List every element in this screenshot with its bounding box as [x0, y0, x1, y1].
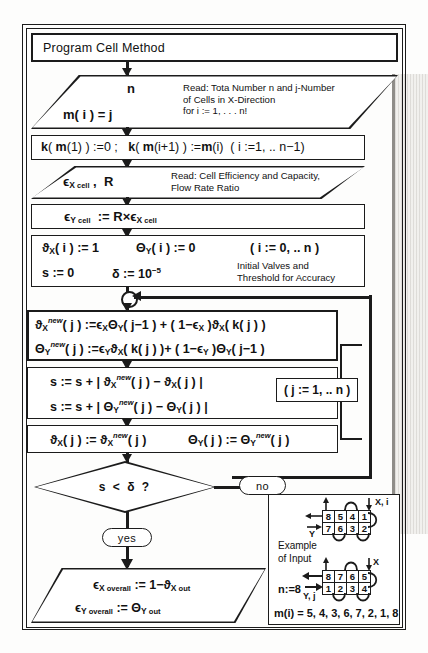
- update-line1: ϑXnew( j ) :=ϵXΘY( j−1 ) + ( 1−ϵX )ϑX( k…: [35, 316, 266, 333]
- example-grid-bottom-overlay: [269, 495, 401, 626]
- output-line2: ϵY overall := ΘY out: [75, 601, 160, 616]
- loop-range-label-box: ( j := 1, .. n ) ( j := 1, .. n ): [276, 378, 358, 402]
- init-line1a: ϑX( i ) := 1: [42, 241, 99, 256]
- process-box-initial-values: ϑX( i ) := 1 ΘY( i ) := 0 ( i := 0, .. n…: [31, 235, 365, 287]
- title-box: Program Cell Method: [31, 33, 398, 62]
- input1-var-top: n: [127, 81, 135, 96]
- process-box-k-assign: k( m(1) ) :=0 ; k( m(i+1) ) :=m(i) ( i :…: [31, 135, 365, 160]
- branch-label-no[interactable]: no: [239, 476, 286, 495]
- loopback-horizontal: [134, 296, 372, 299]
- connector-decision-to-no: [214, 486, 242, 489]
- loopback-vertical: [369, 295, 372, 478]
- output-content: ϵX overall := 1−ϑX out ϵY overall := ΘY …: [31, 568, 266, 623]
- process-box-epsilon-y: ϵY cell := R×ϵX cell ε Y cell := R × ε X…: [31, 204, 365, 229]
- loop-bracket-bottom: [340, 438, 362, 440]
- init-line1b: ΘY( i ) := 0: [136, 241, 196, 256]
- update-line2: ΘYnew( j ) :=ϵYϑX( k( j ) )+ ( 1−ϵY )ΘY(…: [35, 340, 265, 357]
- loop-range-text: ( j := 1, .. n ): [284, 383, 350, 397]
- input-node-read-cells: n m( i ) = j Read: Tota Number n and j-N…: [31, 75, 398, 129]
- input-node-content: n m( i ) = j Read: Tota Number n and j-N…: [31, 75, 398, 129]
- process-box-assign: ϑX( j ) := ϑXnew( j ) ΘY( j ) := ΘYnew( …: [27, 425, 338, 453]
- input2-note: Read: Cell Efficiency and Capacity, Flow…: [171, 170, 361, 193]
- process-k-text: k( m(1) ) :=0 ; k( m(i+1) ) :=m(i) ( i :…: [41, 140, 305, 154]
- input1-note: Read: Tota Number n and j-Number of Cell…: [183, 82, 398, 117]
- output-line1: ϵX overall := 1−ϑX out: [93, 578, 190, 593]
- sums-line2: s := s + | ΘYnew( j ) − ΘY( j ) |: [50, 398, 208, 415]
- input2-vars: ϵX cell , R: [63, 174, 113, 190]
- decision-text: s < δ ?: [34, 461, 216, 513]
- init-line2b: δ := 10−5: [112, 266, 161, 281]
- input2-content: ϵX cell , R ε X cell , R Read: Cell Effi…: [31, 166, 365, 199]
- example-of-input-box: Example of Input n:=8 m(i) = 5, 4, 3, 6,…: [268, 494, 400, 625]
- branch-label-yes[interactable]: yes: [102, 528, 152, 547]
- input-node-read-efficiency: ϵX cell , R ε X cell , R Read: Cell Effi…: [31, 166, 365, 199]
- branch-yes-text: yes: [118, 532, 136, 544]
- branch-no-text: no: [256, 480, 269, 492]
- process-epsilon-text: ϵY cell := R×ϵX cell: [64, 209, 157, 225]
- sums-line1: s := s + | ϑXnew( j ) − ϑX( j ) |: [50, 373, 203, 390]
- init-line1c: ( i := 0, .. n ): [250, 241, 319, 255]
- decision-diamond: s < δ ? s < δ ?: [34, 461, 216, 513]
- assign-line-a: ϑX( j ) := ϑXnew( j ): [50, 431, 146, 448]
- title-label: Program Cell Method: [43, 41, 165, 55]
- output-node: ϵX overall := 1−ϑX out ϵY overall := ΘY …: [31, 568, 266, 623]
- init-line2a: s := 0: [42, 266, 74, 280]
- loop-bracket-top: [340, 344, 362, 346]
- input1-var-bottom: m( i ) = j: [63, 107, 112, 122]
- assign-line-b: ΘY( j ) := ΘYnew( j ): [188, 431, 289, 448]
- process-box-update: ϑXnew( j ) :=ϵXΘY( j−1 ) + ( 1−ϵX )ϑX( k…: [27, 310, 338, 361]
- init-note: Initial Valves and Threshold for Accurac…: [237, 260, 367, 283]
- loopback-arrowhead: [132, 291, 141, 301]
